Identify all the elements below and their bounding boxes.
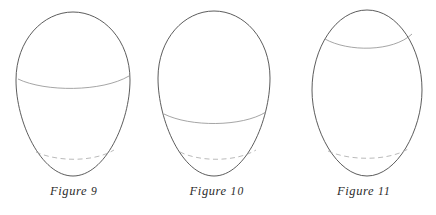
ovoid-outline-9	[16, 12, 130, 176]
egg-diagram-11	[292, 0, 436, 182]
figure-caption-9: Figure 9	[0, 184, 148, 199]
figure-group-10: Figure 10	[146, 0, 288, 215]
figure-caption-label-10: Figure	[190, 184, 227, 198]
figure-plate: Figure 9 Figure 10 Figure	[0, 0, 436, 215]
figure-caption-label-11: Figure	[337, 184, 374, 198]
section-line-dashed-9	[36, 150, 114, 159]
ovoid-outline-10	[158, 11, 270, 176]
figure-caption-number-9: 9	[91, 185, 98, 197]
section-line-solid-10	[164, 112, 266, 124]
figure-caption-10: Figure 10	[146, 184, 288, 199]
figure-caption-number-10: 10	[231, 185, 245, 197]
figure-caption-label-9: Figure	[50, 184, 87, 198]
section-line-solid-9	[18, 76, 129, 88]
figure-caption-11: Figure 11	[292, 184, 436, 199]
figure-group-11: Figure 11	[292, 0, 436, 215]
section-line-dashed-11	[328, 149, 408, 158]
egg-diagram-9	[0, 0, 148, 182]
figure-caption-number-11: 11	[378, 185, 391, 197]
egg-diagram-10	[146, 0, 288, 182]
section-line-solid-11	[325, 34, 412, 48]
figure-group-9: Figure 9	[0, 0, 148, 215]
